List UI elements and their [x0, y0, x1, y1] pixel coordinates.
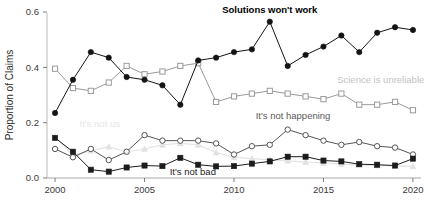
y-axis-tick-label: 0.4 [26, 62, 39, 73]
data-point-marker [52, 135, 57, 140]
data-point-marker [321, 97, 326, 102]
data-point-marker [285, 154, 290, 159]
data-point-marker [303, 52, 308, 57]
y-axis-title-group: Proportion of Claims [4, 50, 15, 141]
data-point-marker [52, 146, 57, 151]
data-point-marker [124, 165, 129, 170]
data-point-marker [70, 155, 75, 160]
data-point-marker [106, 144, 112, 149]
data-point-marker [142, 163, 147, 168]
data-point-marker [213, 150, 219, 155]
data-point-marker [303, 94, 308, 99]
y-axis-tick-label: 0.2 [26, 117, 39, 128]
data-point-marker [160, 138, 165, 143]
data-point-marker [249, 91, 254, 96]
y-axis-title: Proportion of Claims [4, 50, 15, 141]
series-annotation-label: It's not happening [256, 110, 331, 121]
data-point-marker [88, 167, 93, 172]
data-point-marker [303, 132, 308, 137]
series-annotation-label: It's not us [80, 118, 121, 129]
data-point-marker [196, 58, 201, 63]
data-point-marker [392, 163, 397, 168]
data-point-marker [142, 72, 147, 77]
data-point-marker [70, 85, 75, 90]
data-point-marker [339, 91, 344, 96]
data-point-marker [124, 149, 129, 154]
data-point-marker [249, 143, 254, 148]
data-point-marker [52, 66, 57, 71]
data-point-marker [178, 138, 183, 143]
data-point-marker [339, 159, 344, 164]
data-point-marker [52, 110, 57, 115]
data-point-marker [357, 139, 362, 144]
data-point-marker [375, 162, 380, 167]
data-point-marker [88, 49, 93, 54]
series-group [52, 19, 416, 174]
data-point-marker [88, 146, 93, 151]
data-point-marker [267, 159, 272, 164]
data-point-marker [249, 161, 254, 166]
x-axis-tick-label: 2015 [313, 184, 334, 195]
data-point-marker [285, 91, 290, 96]
data-point-marker [303, 154, 308, 159]
data-point-marker [106, 80, 111, 85]
data-point-marker [70, 77, 75, 82]
data-point-marker [70, 149, 75, 154]
series-solutions-won-t-work [52, 19, 415, 116]
data-point-marker [142, 77, 147, 82]
data-point-marker [375, 102, 380, 107]
data-point-marker [267, 88, 272, 93]
data-point-marker [178, 155, 183, 160]
data-point-marker [392, 145, 397, 150]
data-point-marker [249, 47, 254, 52]
data-point-marker [339, 33, 344, 38]
data-point-marker [267, 19, 272, 24]
x-axis-tick-label: 2010 [223, 184, 244, 195]
data-point-marker [106, 169, 111, 174]
data-point-marker [124, 63, 129, 68]
data-point-marker [124, 74, 129, 79]
data-point-marker [231, 49, 236, 54]
data-point-marker [357, 49, 362, 54]
y-axis-tick-label: 0.6 [26, 6, 39, 17]
series-science-is-unreliable [52, 61, 415, 113]
data-point-marker [106, 55, 111, 60]
data-point-marker [410, 27, 415, 32]
data-point-marker [196, 138, 201, 143]
data-point-marker [410, 108, 415, 113]
series-annotation-label: It's not bad [170, 166, 216, 177]
data-point-marker [160, 69, 165, 74]
data-point-marker [231, 164, 236, 169]
data-point-marker [160, 83, 165, 88]
data-point-marker [392, 99, 397, 104]
data-point-marker [374, 30, 379, 35]
data-point-marker [267, 142, 272, 147]
series-it-s-not-happening [52, 127, 415, 163]
y-axis: 0.00.20.40.6 [26, 6, 47, 183]
series-annotation-label: Solutions won't work [222, 4, 318, 15]
series-annotation-label: Science is unreliable [337, 74, 424, 85]
data-point-marker [214, 99, 219, 104]
data-point-marker [231, 94, 236, 99]
data-point-marker [231, 152, 236, 157]
data-point-marker [142, 132, 147, 137]
data-point-marker [88, 88, 93, 93]
data-point-marker [321, 138, 326, 143]
data-point-marker [410, 156, 415, 161]
x-axis-tick-label: 2000 [44, 184, 65, 195]
chart-container: 0.00.20.40.6 20002005201020152020 Soluti… [0, 0, 428, 211]
data-point-marker [321, 158, 326, 163]
data-point-marker [213, 55, 218, 60]
data-point-marker [374, 143, 379, 148]
x-axis-tick-label: 2020 [402, 184, 423, 195]
data-point-marker [106, 157, 111, 162]
data-point-marker [392, 25, 397, 30]
x-axis-tick-label: 2005 [134, 184, 155, 195]
data-point-marker [178, 63, 183, 68]
data-point-marker [178, 102, 183, 107]
x-axis: 20002005201020152020 [44, 178, 423, 195]
data-point-marker [321, 44, 326, 49]
line-chart-plot: 0.00.20.40.6 20002005201020152020 Soluti… [0, 0, 428, 211]
data-point-marker [357, 162, 362, 167]
data-point-marker [339, 142, 344, 147]
